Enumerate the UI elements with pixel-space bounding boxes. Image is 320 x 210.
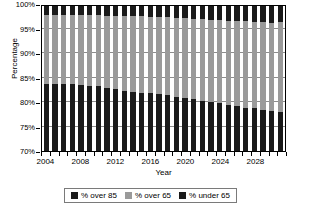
bar-segment: [234, 21, 239, 106]
bar-segment: [156, 6, 161, 17]
bar-segment: [260, 6, 265, 22]
bar-column[interactable]: [252, 6, 257, 151]
bar-segment: [191, 6, 196, 19]
bar-column[interactable]: [260, 6, 265, 151]
y-tick-label: 90%: [20, 50, 35, 58]
x-tick-mark: [242, 152, 243, 156]
bar-segment: [191, 19, 196, 100]
bar-slot: [241, 6, 250, 151]
bar-segment: [78, 85, 83, 151]
bar-column[interactable]: [217, 6, 222, 151]
legend-item[interactable]: % over 85: [71, 191, 117, 200]
x-tick-mark: [234, 152, 235, 156]
bar-segment: [217, 20, 222, 103]
bar-column[interactable]: [165, 6, 170, 151]
bar-column[interactable]: [234, 6, 239, 151]
bar-segment: [113, 89, 118, 151]
x-tick-mark: [164, 152, 165, 156]
bar-segment: [260, 110, 265, 151]
bar-segment: [165, 17, 170, 95]
bar-column[interactable]: [174, 6, 179, 151]
bar-column[interactable]: [78, 6, 83, 151]
bar-segment: [61, 6, 66, 15]
legend-item[interactable]: % under 65: [179, 191, 230, 200]
bar-segment: [70, 84, 75, 151]
bar-column[interactable]: [130, 6, 135, 151]
bar-segment: [139, 93, 144, 151]
x-tick-mark: [146, 152, 147, 156]
legend-swatch-icon: [179, 192, 186, 199]
bar-column[interactable]: [44, 6, 49, 151]
bar-column[interactable]: [269, 6, 274, 151]
x-tick-label: 2016: [141, 157, 159, 167]
bar-slot: [224, 6, 233, 151]
bar-column[interactable]: [156, 6, 161, 151]
bar-segment: [96, 86, 101, 151]
bar-column[interactable]: [122, 6, 127, 151]
bar-slot: [276, 6, 285, 151]
bar-segment: [113, 6, 118, 16]
bar-segment: [122, 91, 127, 151]
bar-column[interactable]: [113, 6, 118, 151]
bar-column[interactable]: [278, 6, 283, 151]
bar-column[interactable]: [200, 6, 205, 151]
bar-column[interactable]: [61, 6, 66, 151]
x-tick-mark: [225, 152, 226, 156]
bar-column[interactable]: [226, 6, 231, 151]
y-tick-label: 85%: [20, 75, 35, 83]
bar-series-container: [42, 6, 285, 151]
bar-slot: [51, 6, 60, 151]
bar-column[interactable]: [87, 6, 92, 151]
bar-column[interactable]: [139, 6, 144, 151]
bar-segment: [200, 19, 205, 101]
y-tick-mark: [36, 79, 40, 80]
bar-slot: [85, 6, 94, 151]
bar-segment: [208, 102, 213, 151]
bar-slot: [94, 6, 103, 151]
bar-segment: [96, 15, 101, 86]
x-tick-mark: [277, 152, 278, 156]
bar-column[interactable]: [104, 6, 109, 151]
legend-item[interactable]: % over 65: [125, 191, 171, 200]
bar-slot: [77, 6, 86, 151]
bar-slot: [103, 6, 112, 151]
x-tick-mark: [120, 152, 121, 156]
bar-segment: [61, 15, 66, 84]
bar-column[interactable]: [243, 6, 248, 151]
y-tick-mark: [36, 30, 40, 31]
bar-segment: [269, 23, 274, 111]
bar-slot: [215, 6, 224, 151]
bar-segment: [182, 18, 187, 98]
plot-area: [41, 5, 286, 152]
bar-column[interactable]: [182, 6, 187, 151]
legend-swatch-icon: [125, 192, 132, 199]
bar-column[interactable]: [191, 6, 196, 151]
x-tick-mark: [199, 152, 200, 156]
bar-segment: [269, 111, 274, 151]
y-tick-label: 70%: [20, 148, 35, 156]
x-tick-mark: [102, 152, 103, 156]
y-tick-mark: [36, 54, 40, 55]
y-tick-label: 95%: [20, 26, 35, 34]
bar-segment: [278, 22, 283, 112]
x-tick-mark: [251, 152, 252, 156]
bar-segment: [243, 21, 248, 107]
x-tick-label: 2004: [36, 157, 54, 167]
bar-column[interactable]: [148, 6, 153, 151]
bar-segment: [217, 103, 222, 151]
x-tick-mark: [286, 152, 287, 156]
bar-column[interactable]: [96, 6, 101, 151]
bar-slot: [68, 6, 77, 151]
bar-slot: [233, 6, 242, 151]
bar-slot: [267, 6, 276, 151]
bar-column[interactable]: [52, 6, 57, 151]
x-axis-title: Year: [41, 168, 286, 177]
bar-slot: [146, 6, 155, 151]
bar-slot: [59, 6, 68, 151]
bar-column[interactable]: [208, 6, 213, 151]
bar-segment: [234, 6, 239, 21]
bar-segment: [243, 6, 248, 21]
legend-label: % under 65: [189, 191, 230, 200]
bar-segment: [104, 16, 109, 88]
bar-column[interactable]: [70, 6, 75, 151]
